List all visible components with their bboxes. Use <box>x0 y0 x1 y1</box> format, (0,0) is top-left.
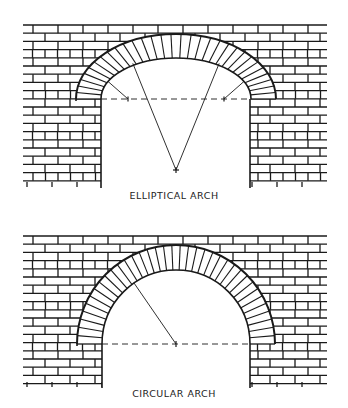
arch-ring <box>77 245 275 344</box>
brick-wall <box>23 25 327 187</box>
brick-wall <box>23 236 327 387</box>
construction-lines <box>102 283 250 347</box>
elliptical-arch-diagram <box>23 25 327 188</box>
construction-lines <box>101 63 250 173</box>
elliptical-arch-caption: ELLIPTICAL ARCH <box>0 190 348 201</box>
circular-arch-caption: CIRCULAR ARCH <box>0 388 348 399</box>
arch-ring <box>76 34 276 99</box>
arch-drawings <box>0 0 348 408</box>
circular-arch-diagram <box>23 236 327 388</box>
